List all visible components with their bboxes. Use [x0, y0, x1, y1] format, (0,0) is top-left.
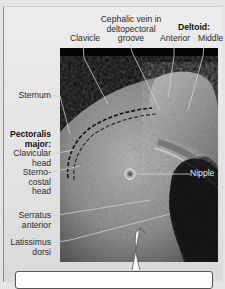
label-deltoid-heading: Deltoid:: [178, 23, 210, 33]
label-clavicular-head: Clavicular head: [4, 149, 51, 168]
callout-pointer: [132, 228, 146, 270]
label-sternum: Sternum: [8, 91, 51, 101]
label-latissimus-dorsi: Latissimus dorsi: [2, 238, 51, 257]
label-cephalic-vein: Cephalic vein in deltopectoral groove: [98, 15, 164, 44]
label-deltoid-middle: Middle: [198, 34, 223, 44]
label-sternocostal-head: Sterno- costal head: [4, 168, 51, 197]
label-nipple: Nipple: [190, 169, 214, 179]
label-pectoralis-heading: Pectoralis major:: [4, 130, 51, 149]
label-deltoid-anterior: Anterior: [160, 34, 190, 44]
label-serratus-anterior: Serratus anterior: [4, 211, 51, 230]
label-clavicle: Clavicle: [70, 34, 100, 44]
caption-callout-box: [15, 271, 213, 289]
